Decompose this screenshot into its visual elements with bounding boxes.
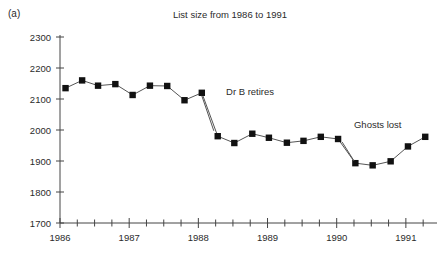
data-point-marker xyxy=(352,160,358,166)
data-point-marker xyxy=(112,81,118,87)
data-point-marker xyxy=(300,138,306,144)
data-point-marker xyxy=(129,92,135,98)
y-tick-label: 1900 xyxy=(30,156,51,167)
data-point-marker xyxy=(318,134,324,140)
x-tick-label: 1991 xyxy=(395,232,416,243)
x-tick-label: 1989 xyxy=(257,232,278,243)
data-point-marker xyxy=(369,162,375,168)
data-point-marker xyxy=(422,134,428,140)
y-tick-label: 2300 xyxy=(30,32,51,43)
data-point-marker xyxy=(215,133,221,139)
data-point-marker xyxy=(335,136,341,142)
x-tick-label: 1986 xyxy=(49,232,70,243)
data-point-marker xyxy=(79,77,85,83)
annotation-leader-line xyxy=(202,96,214,131)
annotation-leader-line xyxy=(342,142,354,161)
annotation-label: Ghosts lost xyxy=(354,119,402,130)
x-tick-label: 1987 xyxy=(119,232,140,243)
annotation-label: Dr B retires xyxy=(226,86,274,97)
data-point-marker xyxy=(164,83,170,89)
data-point-marker xyxy=(387,158,393,164)
data-point-marker xyxy=(181,97,187,103)
y-tick-label: 2200 xyxy=(30,63,51,74)
y-tick-label: 1800 xyxy=(30,187,51,198)
data-point-marker xyxy=(249,131,255,137)
x-tick-label: 1988 xyxy=(188,232,209,243)
chart-figure: (a) List size from 1986 to 1991 17001800… xyxy=(0,0,447,253)
y-tick-label: 2000 xyxy=(30,125,51,136)
data-point-marker xyxy=(147,82,153,88)
data-point-marker xyxy=(199,90,205,96)
chart-plot-area: 1700180019002000210022002300198619871988… xyxy=(0,0,447,253)
data-point-marker xyxy=(62,85,68,91)
x-tick-label: 1990 xyxy=(326,232,347,243)
data-point-marker xyxy=(231,140,237,146)
data-point-marker xyxy=(405,143,411,149)
y-tick-label: 1700 xyxy=(30,218,51,229)
y-tick-label: 2100 xyxy=(30,94,51,105)
data-point-marker xyxy=(95,82,101,88)
data-point-marker xyxy=(284,140,290,146)
data-point-marker xyxy=(266,135,272,141)
